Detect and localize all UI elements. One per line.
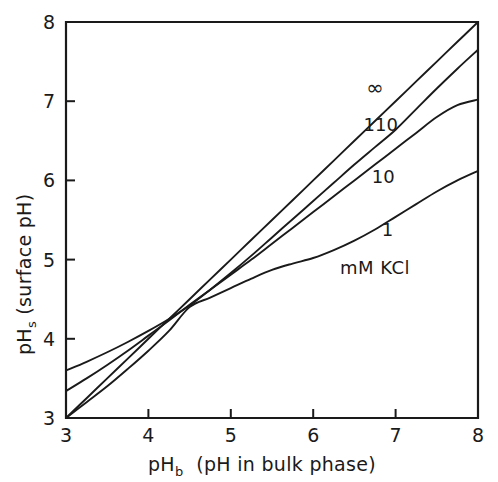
x-axis-title-main: pH bbox=[148, 453, 175, 475]
units-annotation: mM KCl bbox=[340, 257, 410, 278]
y-tick-label: 3 bbox=[43, 407, 55, 429]
y-axis-title-subscript: s bbox=[24, 321, 39, 328]
y-axis-title: pHs (surface pH) bbox=[13, 194, 39, 355]
curve-label-1: 1 bbox=[382, 219, 393, 240]
y-tick-label: 7 bbox=[43, 90, 55, 112]
x-tick-label: 6 bbox=[307, 424, 319, 446]
x-axis-title-subscript: b bbox=[175, 464, 184, 479]
y-tick-label: 6 bbox=[43, 169, 55, 191]
svg-text:pHs (surface pH): pHs (surface pH) bbox=[13, 194, 39, 355]
x-tick-label: 5 bbox=[225, 424, 237, 446]
x-axis-tick-labels: 345678 bbox=[60, 424, 484, 446]
y-axis-tick-labels: 345678 bbox=[43, 11, 55, 429]
x-axis-title: pHb (pH in bulk phase) bbox=[148, 453, 376, 479]
curve-10 bbox=[66, 100, 478, 391]
curve-110 bbox=[66, 50, 478, 371]
chart-canvas: 345678 345678 ∞110101 mM KCl pHb (pH in … bbox=[0, 0, 498, 482]
x-tick-label: 7 bbox=[390, 424, 402, 446]
curve-label-∞: ∞ bbox=[366, 76, 384, 100]
x-tick-label: 3 bbox=[60, 424, 72, 446]
x-axis-ticks bbox=[148, 409, 395, 418]
curve-label-10: 10 bbox=[372, 166, 395, 187]
y-axis-ticks bbox=[66, 101, 75, 339]
x-axis-title-rest: (pH in bulk phase) bbox=[196, 453, 376, 475]
curve-series-labels: ∞110101 bbox=[364, 76, 398, 240]
y-axis-title-main: pH bbox=[13, 328, 35, 355]
x-tick-label: 4 bbox=[142, 424, 154, 446]
y-tick-label: 4 bbox=[43, 328, 55, 350]
y-tick-label: 8 bbox=[43, 11, 55, 33]
curve-1 bbox=[66, 171, 478, 418]
figure-container: 345678 345678 ∞110101 mM KCl pHb (pH in … bbox=[0, 0, 498, 482]
y-tick-label: 5 bbox=[43, 249, 55, 271]
x-tick-label: 8 bbox=[472, 424, 484, 446]
svg-text:pHb (pH in bulk phase): pHb (pH in bulk phase) bbox=[148, 453, 376, 479]
curve-label-110: 110 bbox=[364, 114, 398, 135]
data-curves bbox=[66, 22, 478, 418]
y-axis-title-rest: (surface pH) bbox=[13, 194, 35, 315]
curve-∞ bbox=[66, 22, 478, 418]
